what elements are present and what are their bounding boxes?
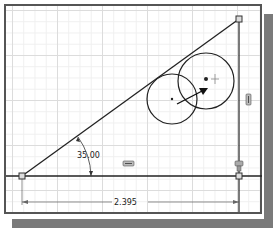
endpoint-origin[interactable] bbox=[19, 173, 25, 179]
endpoint-top-right[interactable] bbox=[236, 16, 242, 22]
circle-large-center[interactable] bbox=[204, 77, 208, 81]
crosshair-cursor-icon bbox=[211, 74, 219, 84]
horizontal-constraint-icon[interactable] bbox=[123, 161, 134, 166]
sketch-window: 35.00 2.395 bbox=[0, 0, 273, 228]
linear-dimension-text[interactable]: 2.395 bbox=[114, 198, 137, 207]
angle-dimension-text[interactable]: 35.00 bbox=[77, 151, 100, 160]
fix-constraint-icon[interactable] bbox=[235, 161, 243, 171]
vertical-constraint-icon[interactable] bbox=[246, 94, 251, 105]
inclined-line[interactable] bbox=[22, 19, 239, 176]
circle-small-center[interactable] bbox=[171, 98, 173, 100]
dimension-arrow-left-icon bbox=[22, 200, 28, 204]
angle-arrow-bottom-icon bbox=[89, 171, 93, 176]
sketch-geometry[interactable]: 35.00 2.395 bbox=[0, 0, 273, 228]
endpoint-bottom-right[interactable] bbox=[236, 173, 242, 179]
dimension-arrow-right-icon bbox=[233, 200, 239, 204]
